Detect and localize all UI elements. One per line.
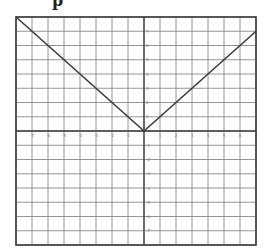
x-tick-label: -6 [46,133,50,138]
x-tick-label: -1 [126,133,130,138]
coordinate-grid-plot: -7-6-5-4-3-2-112345677654321-1-2-3-4-5-6… [0,0,267,251]
y-tick-label: -4 [146,186,150,191]
y-tick-label: -5 [146,200,150,205]
y-tick-label: -3 [146,171,150,176]
x-tick-label: 5 [223,133,226,138]
y-tick-label: -2 [146,157,150,162]
y-tick-label: -6 [146,214,150,219]
x-tick-label: -3 [94,133,98,138]
x-tick-label: 1 [159,133,162,138]
axes [16,17,256,245]
x-tick-label: 3 [191,133,194,138]
y-tick-label: -7 [146,228,150,233]
x-tick-label: 4 [207,133,210,138]
x-tick-label: -5 [62,133,66,138]
x-tick-label: 2 [175,133,178,138]
x-tick-label: -4 [78,133,82,138]
y-tick-label: -1 [146,143,150,148]
x-tick-label: -2 [110,133,114,138]
x-tick-label: 6 [239,133,242,138]
x-tick-label: -7 [30,133,34,138]
